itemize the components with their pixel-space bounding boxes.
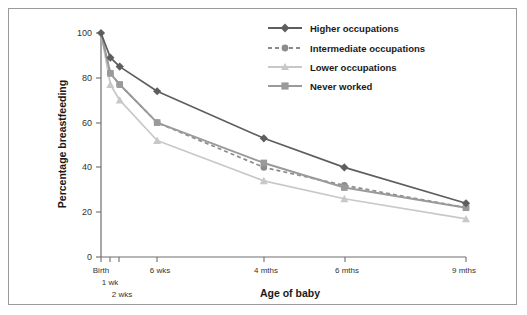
series-line <box>101 33 466 219</box>
x-tick-label-4mths: 4 mths <box>254 266 278 275</box>
x-axis-title: Age of baby <box>260 287 320 299</box>
legend-label-higher: Higher occupations <box>310 23 399 34</box>
x-tick-label-9mths: 9 mths <box>452 266 476 275</box>
legend-item-higher-occupations[interactable]: Higher occupations <box>268 23 399 34</box>
data-point-square <box>154 119 161 126</box>
data-point-diamond <box>97 29 105 37</box>
legend-item-lower-occupations[interactable]: Lower occupations <box>268 62 397 73</box>
y-tick-label-20: 20 <box>82 207 92 217</box>
data-point-triangle <box>106 81 114 88</box>
data-point-triangle <box>116 96 124 103</box>
legend-label-intermediate: Intermediate occupations <box>310 43 425 54</box>
y-axis-ticks <box>96 33 101 257</box>
x-tick-label-1wk: 1 wk <box>102 278 119 287</box>
y-tick-label-40: 40 <box>82 162 92 172</box>
x-tick-label-6mths: 6 mths <box>335 266 359 275</box>
legend-label-never-worked: Never worked <box>310 81 373 92</box>
y-tick-label-0: 0 <box>87 252 92 262</box>
series-line <box>101 33 466 203</box>
data-point-diamond <box>340 163 348 171</box>
data-point-square <box>261 160 268 167</box>
x-axis-ticks <box>101 257 466 262</box>
y-tick-label-100: 100 <box>77 28 92 38</box>
chart-legend: Higher occupations Intermediate occupati… <box>268 23 425 92</box>
breastfeeding-line-chart: 100 80 60 40 20 0 Percentage breastfeedi… <box>0 0 527 315</box>
square-icon <box>281 82 288 89</box>
legend-item-never-worked[interactable]: Never worked <box>268 81 373 92</box>
data-point-diamond <box>260 134 268 142</box>
y-tick-label-60: 60 <box>82 118 92 128</box>
data-point-square <box>116 81 123 88</box>
legend-label-lower: Lower occupations <box>310 62 397 73</box>
data-point-square <box>107 70 114 77</box>
x-tick-label-6wks: 6 wks <box>150 266 170 275</box>
chart-svg: 100 80 60 40 20 0 Percentage breastfeedi… <box>0 0 527 315</box>
legend-item-intermediate-occupations[interactable]: Intermediate occupations <box>268 43 425 54</box>
data-point-square <box>341 184 348 191</box>
y-axis-title: Percentage breastfeeding <box>56 80 68 208</box>
x-tick-label-2wks: 2 wks <box>112 290 132 299</box>
series-never-worked <box>101 33 469 211</box>
circle-icon <box>282 45 289 52</box>
y-tick-label-80: 80 <box>82 73 92 83</box>
series-layer <box>97 29 470 222</box>
x-tick-label-birth: Birth <box>93 266 109 275</box>
diamond-icon <box>281 24 290 33</box>
series-lower-occupations <box>101 33 470 222</box>
